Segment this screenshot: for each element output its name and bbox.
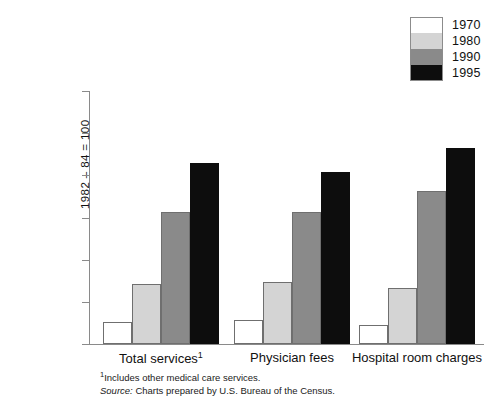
y-tick-mark (82, 260, 89, 261)
legend-label-1990: 1990 (452, 49, 481, 65)
y-tick-mark (82, 133, 89, 134)
bar-1970 (234, 320, 263, 344)
x-axis-line (89, 344, 484, 345)
legend-swatch-1970 (410, 17, 443, 33)
source-text: Charts prepared by U.S. Bureau of the Ce… (133, 385, 335, 396)
plot-area: 1982 – 84 = 100 050100150200250300 Total… (89, 91, 484, 344)
bar-1990 (417, 191, 446, 344)
bar-group: Total services1 (103, 91, 219, 344)
legend-label-1980: 1980 (452, 33, 481, 49)
y-tick-mark (82, 175, 89, 176)
bar-group: Physician fees (234, 91, 350, 344)
bar-1980 (388, 288, 417, 345)
y-tick-mark (82, 91, 89, 92)
bar-1995 (321, 172, 350, 344)
legend-label-1995: 1995 (452, 65, 481, 81)
x-axis-category-label: Physician fees (250, 350, 334, 365)
bar-group: Hospital room charges (359, 91, 475, 344)
source-label: Source: (100, 385, 133, 396)
legend-item: 1980 (410, 33, 492, 49)
legend-swatch-1990 (410, 49, 443, 65)
bar-1980 (132, 284, 161, 344)
bar-1970 (359, 325, 388, 344)
bar-1995 (446, 148, 475, 344)
bar-1990 (292, 212, 321, 344)
category-footnote-marker: 1 (198, 350, 203, 360)
legend-swatch-1980 (410, 33, 443, 49)
legend-item: 1995 (410, 65, 492, 81)
footnote-text-1: Includes other medical care services. (104, 372, 260, 383)
bar-1970 (103, 322, 132, 344)
footnote-line-1: 1Includes other medical care services. (100, 369, 335, 385)
footnote-line-source: Source: Charts prepared by U.S. Bureau o… (100, 385, 335, 398)
legend-item: 1990 (410, 49, 492, 65)
bar-1980 (263, 282, 292, 344)
legend-swatch-1995 (410, 65, 443, 81)
bar-group-bars (103, 91, 219, 344)
footnotes: 1Includes other medical care services. S… (100, 369, 335, 397)
legend-item: 1970 (410, 17, 492, 33)
y-tick-mark (82, 302, 89, 303)
bar-group-bars (359, 91, 475, 344)
bar-1995 (190, 163, 219, 344)
y-tick-mark (82, 218, 89, 219)
y-tick-mark (82, 344, 89, 345)
x-axis-category-label: Hospital room charges (352, 350, 482, 365)
chart-legend: 1970 1980 1990 1995 (410, 17, 492, 81)
x-axis-category-label: Total services1 (119, 350, 203, 366)
bar-1990 (161, 212, 190, 344)
legend-label-1970: 1970 (452, 17, 481, 33)
bar-group-bars (234, 91, 350, 344)
bar-chart-figure: 1970 1980 1990 1995 1982 – 84 = 100 0501… (0, 0, 497, 400)
